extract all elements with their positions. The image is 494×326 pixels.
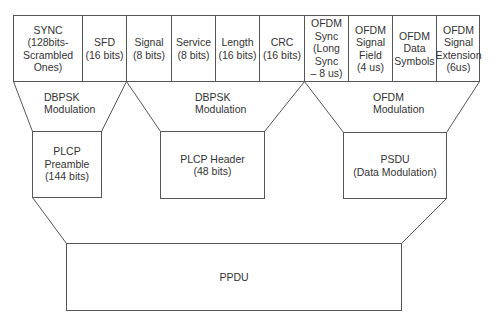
field-length: Length (16 bits) bbox=[216, 16, 259, 81]
trapezoid-preamble-left bbox=[14, 82, 33, 132]
ppdu-label: PPDU bbox=[67, 244, 401, 310]
plcp-preamble-label: PLCP Preamble (144 bits) bbox=[33, 132, 101, 196]
plcp-header-label: PLCP Header (48 bits) bbox=[161, 132, 264, 198]
field-ofdm-sync: OFDM Sync (Long Sync – 8 us) bbox=[305, 16, 348, 81]
field-signal: Signal (8 bits) bbox=[127, 16, 171, 81]
field-sync: SYNC (128bits- Scrambled Ones) bbox=[14, 16, 82, 81]
field-sfd: SFD (16 bits) bbox=[83, 16, 126, 81]
psdu-label: PSDU (Data Modulation) bbox=[344, 133, 446, 198]
field-ofdm-data-symbols: OFDM Data Symbols bbox=[393, 16, 436, 81]
trapezoid-ppdu-left bbox=[33, 198, 67, 244]
trapezoid-preamble-right bbox=[102, 82, 127, 132]
trapezoid-psdu-left bbox=[305, 82, 344, 133]
trapezoid-header-right bbox=[265, 82, 305, 132]
trapezoid-psdu-right bbox=[447, 82, 480, 133]
modulation-label-psdu: OFDM Modulation bbox=[373, 89, 424, 117]
field-ofdm-signal-field: OFDM Signal Field (4 us) bbox=[349, 16, 392, 81]
trapezoid-header-left bbox=[127, 82, 161, 132]
field-service: Service (8 bits) bbox=[172, 16, 215, 81]
modulation-label-preamble: DBPSK Modulation bbox=[44, 89, 95, 117]
modulation-label-header: DBPSK Modulation bbox=[195, 89, 246, 117]
field-crc: CRC (16 bits) bbox=[260, 16, 304, 81]
field-ofdm-signal-extension: OFDM Signal Extension (6us) bbox=[437, 16, 480, 81]
trapezoid-ppdu-right bbox=[402, 199, 447, 244]
